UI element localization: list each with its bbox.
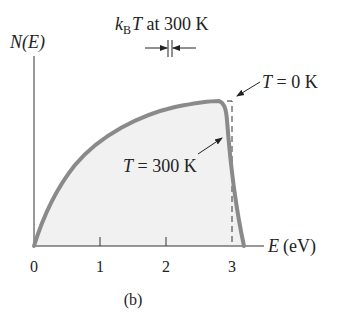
tick-label-2: 2 bbox=[162, 258, 170, 275]
kbt-width-indicator bbox=[145, 40, 196, 57]
y-axis-label: N(E) bbox=[9, 32, 45, 53]
fermi-dirac-diagram: N(E) E(eV) 0 1 2 3 (b) kBT at 300 K T = … bbox=[0, 0, 349, 321]
subfigure-caption: (b) bbox=[124, 291, 143, 309]
tick-label-0: 0 bbox=[30, 258, 38, 275]
t0-arrow bbox=[237, 82, 260, 96]
t0-label: T = 0 K bbox=[262, 72, 318, 92]
tick-label-1: 1 bbox=[96, 258, 104, 275]
tick-label-3: 3 bbox=[228, 258, 236, 275]
x-axis-label: E(eV) bbox=[267, 236, 316, 257]
t300-label: T = 300 K bbox=[123, 156, 197, 176]
kbt-label: kBT at 300 K bbox=[115, 14, 209, 37]
